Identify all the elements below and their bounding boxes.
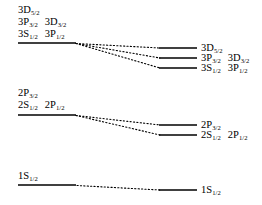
term-2s12: 2S1/2 <box>201 129 221 141</box>
subscript: 1/2 <box>212 134 220 141</box>
n3-group <box>18 43 197 68</box>
n3-left-label-stack: 3D5/2 3P3/23D3/2 3S1/23P1/2 <box>18 4 66 40</box>
term-3d32: 3D3/2 <box>45 16 66 28</box>
n1-right-label-1: 1S1/2 <box>201 184 221 196</box>
n2-connector-dotted-1 <box>76 116 160 126</box>
subscript: 1/2 <box>212 67 220 74</box>
subscript: 1/2 <box>56 104 64 111</box>
subscript: 5/2 <box>31 9 39 16</box>
n2-left-label-row-1: 2P3/2 <box>18 87 64 99</box>
term-2p32: 2P3/2 <box>18 87 38 99</box>
term-1s12: 1S1/2 <box>201 184 221 196</box>
n1-connector-dotted-1 <box>77 186 160 191</box>
energy-level-diagram: 3D5/2 3P3/23D3/2 3S1/23P1/2 3D5/2 3P3/23… <box>0 0 262 205</box>
n1-group <box>18 185 197 190</box>
n3-connector-dotted-3 <box>76 44 160 69</box>
subscript: 3/2 <box>29 92 37 99</box>
subscript: 1/2 <box>29 104 37 111</box>
term-3p12: 3P1/2 <box>45 28 65 40</box>
n3-left-label-row-1: 3D5/2 <box>18 4 66 16</box>
n3-right-label-3: 3S1/23P1/2 <box>201 62 247 74</box>
n3-left-label-row-2: 3P3/23D3/2 <box>18 16 66 28</box>
subscript: 3/2 <box>58 21 66 28</box>
n3-left-label-row-3: 3S1/23P1/2 <box>18 28 66 40</box>
subscript: 1/2 <box>29 175 37 182</box>
subscript: 1/2 <box>239 67 247 74</box>
n3-connector-dotted-2 <box>76 44 160 59</box>
n2-connector-dotted-2 <box>76 116 160 136</box>
term-2p12: 2P1/2 <box>45 99 65 111</box>
subscript: 1/2 <box>212 189 220 196</box>
subscript: 1/2 <box>56 33 64 40</box>
term-3s12: 3S1/2 <box>201 62 221 74</box>
term-3s12: 3S1/2 <box>18 28 38 40</box>
n1-left-label-1: 1S1/2 <box>18 170 38 182</box>
term-2p12: 2P1/2 <box>228 129 248 141</box>
n3-connector-dotted-1 <box>76 44 160 49</box>
term-3p12: 3P1/2 <box>228 62 248 74</box>
term-3d52: 3D5/2 <box>18 4 39 16</box>
n2-right-label-2: 2S1/22P1/2 <box>201 129 247 141</box>
subscript: 3/2 <box>29 21 37 28</box>
term-1s12: 1S1/2 <box>18 170 38 182</box>
subscript: 1/2 <box>239 134 247 141</box>
n2-group <box>18 115 197 135</box>
n2-left-label-row-2: 2S1/22P1/2 <box>18 99 64 111</box>
term-2s12: 2S1/2 <box>18 99 38 111</box>
term-3p32: 3P3/2 <box>18 16 38 28</box>
n2-left-label-stack: 2P3/2 2S1/22P1/2 <box>18 87 64 111</box>
subscript: 1/2 <box>29 33 37 40</box>
